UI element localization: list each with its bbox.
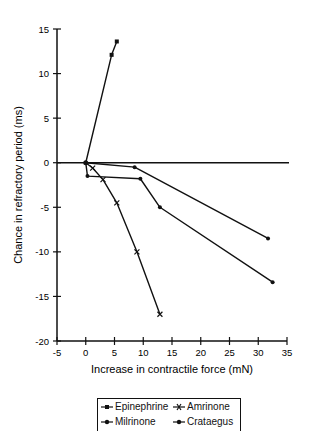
series-amrinone xyxy=(86,163,163,317)
legend-item-milrinone: Milrinone xyxy=(101,416,156,427)
x-tick-label: 15 xyxy=(167,347,178,358)
x-tick-label: 10 xyxy=(138,347,149,358)
legend-item-amrinone: Amrinone xyxy=(173,401,230,412)
x-axis-label: Increase in contractile force (mN) xyxy=(91,363,253,375)
data-point xyxy=(133,165,137,169)
y-tick-label: -20 xyxy=(35,336,49,347)
dot-marker-icon xyxy=(173,418,185,426)
y-tick-label: -5 xyxy=(41,202,49,213)
data-point xyxy=(271,280,275,284)
y-tick-label: 10 xyxy=(38,68,49,79)
data-point xyxy=(90,166,95,171)
x-tick-label: 5 xyxy=(112,347,117,358)
legend-label: Crataegus xyxy=(187,416,233,427)
x-tick-label: 30 xyxy=(253,347,264,358)
y-tick-label: -10 xyxy=(35,246,49,257)
legend-label: Epinephrine xyxy=(115,401,168,412)
legend: Epinephrine Amrinone Milrinone Crataegus xyxy=(97,398,241,431)
y-tick-label: 15 xyxy=(38,24,49,35)
x-marker-icon xyxy=(173,403,185,411)
y-tick-label: -15 xyxy=(35,291,49,302)
dot-marker-icon xyxy=(101,418,113,426)
data-point xyxy=(138,177,142,181)
data-point xyxy=(110,53,114,57)
data-point xyxy=(115,39,119,43)
x-tick-label: 25 xyxy=(224,347,235,358)
y-tick-label: 0 xyxy=(44,157,49,168)
x-tick-label: -5 xyxy=(53,347,61,358)
series-epinephrine xyxy=(86,39,119,162)
data-point xyxy=(85,174,89,178)
series-milrinone xyxy=(85,163,274,284)
data-point xyxy=(101,177,106,182)
series-layer xyxy=(83,39,274,316)
y-axis-label: Chance in refractory period (ms) xyxy=(12,106,24,264)
data-point xyxy=(158,205,162,209)
series-crataegus xyxy=(86,163,270,241)
legend-item-epinephrine: Epinephrine xyxy=(101,401,168,412)
x-tick-label: 0 xyxy=(83,347,88,358)
y-tick-label: 5 xyxy=(44,113,49,124)
data-point xyxy=(266,236,270,240)
origin-point xyxy=(83,160,88,165)
x-tick-label: 35 xyxy=(282,347,293,358)
legend-label: Amrinone xyxy=(187,401,230,412)
line-chart: 151050-5-10-15-20-505101520253035 Increa… xyxy=(0,0,311,395)
legend-label: Milrinone xyxy=(115,416,156,427)
square-marker-icon xyxy=(101,403,113,411)
axes: 151050-5-10-15-20-505101520253035 xyxy=(35,24,292,359)
x-tick-label: 20 xyxy=(195,347,206,358)
legend-item-crataegus: Crataegus xyxy=(173,416,233,427)
